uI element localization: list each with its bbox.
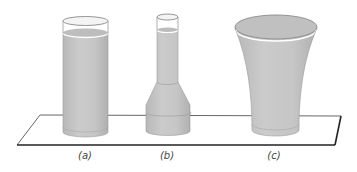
hydrostatic-vessels-diagram: [0, 0, 357, 172]
label-vessel-a: (a): [78, 150, 92, 161]
label-vessel-b: (b): [160, 150, 174, 161]
label-vessel-c: (c): [267, 150, 280, 161]
vessel-b-flask: [146, 14, 191, 136]
vessel-a-cylinder: [63, 17, 108, 138]
